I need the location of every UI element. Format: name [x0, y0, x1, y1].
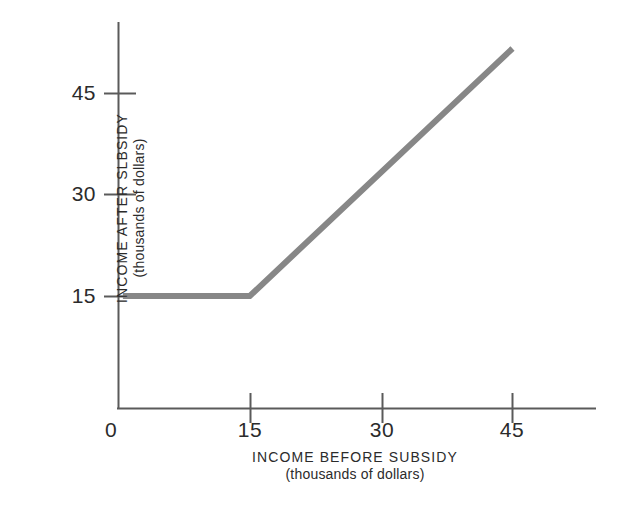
y-tick-label-30: 30 — [72, 182, 96, 206]
x-axis-title-main: INCOME BEFORE SUBSIDY — [252, 449, 458, 466]
x-tick-label-15: 15 — [238, 418, 262, 442]
series-income-after-subsidy — [123, 49, 513, 297]
y-tick-label-45: 45 — [72, 81, 96, 105]
x-tick-label-0: 0 — [105, 418, 117, 442]
x-tick-label-45: 45 — [500, 418, 524, 442]
chart-figure: 45 30 15 0 15 30 45 INCOME BEFORE SUBSID… — [0, 0, 628, 508]
y-axis-title: INCOME AFTER SLBSIDY (thousands of dolla… — [114, 113, 148, 303]
y-axis-title-sub: (thousands of dollars) — [131, 113, 148, 303]
x-tick-label-30: 30 — [370, 418, 394, 442]
y-axis-title-main: INCOME AFTER SLBSIDY — [114, 113, 131, 303]
x-axis-title-sub: (thousands of dollars) — [252, 466, 458, 483]
y-tick-label-15: 15 — [72, 284, 96, 308]
x-axis-title: INCOME BEFORE SUBSIDY (thousands of doll… — [252, 449, 458, 483]
plot-area — [0, 0, 628, 508]
